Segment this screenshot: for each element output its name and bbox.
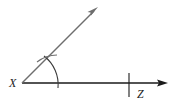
vertex-label-x: X bbox=[8, 76, 17, 90]
base-ray bbox=[22, 80, 168, 87]
constructed-ray bbox=[22, 7, 98, 83]
angle-construction-diagram: X Z bbox=[0, 0, 173, 112]
constructed-ray-arrowhead-icon bbox=[88, 7, 99, 16]
point-label-z: Z bbox=[137, 87, 144, 101]
